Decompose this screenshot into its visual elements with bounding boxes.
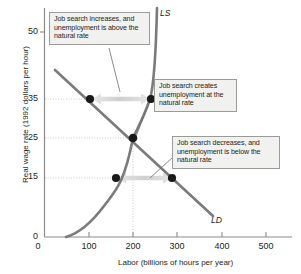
- x-tick-100: 100: [77, 241, 101, 251]
- marker-ld-at-15: [168, 174, 176, 182]
- x-tick-0: 0: [26, 241, 50, 251]
- x-tick-200: 200: [121, 241, 145, 251]
- annotation-below-natural-rate: Job search decreases, and unemployment i…: [172, 136, 280, 169]
- x-tick-300: 300: [165, 241, 189, 251]
- y-tick-0: 0: [18, 231, 38, 241]
- labor-market-chart: LS LD 50 35 25 15 0 0 100 200 300 400 50…: [0, 0, 301, 274]
- leader-above: [109, 48, 120, 92]
- surplus-arrow: [92, 94, 150, 105]
- marker-ld-at-35: [86, 95, 94, 103]
- x-tick-500: 500: [254, 241, 278, 251]
- x-axis-title: Labor (billions of hours per year): [118, 258, 233, 267]
- shortage-arrow: [117, 173, 172, 184]
- marker-ls-at-15: [112, 174, 120, 182]
- annotation-at-natural-rate: Job search creates unemployment at the n…: [154, 79, 237, 112]
- curve-label-ls: LS: [160, 8, 171, 18]
- callout-leaders: [109, 48, 172, 178]
- curve-label-ld: LD: [211, 215, 222, 225]
- y-axis-title: Real wage rate (1992 dollars per hour): [21, 25, 30, 205]
- axis-ticks: [40, 32, 266, 237]
- x-tick-400: 400: [210, 241, 234, 251]
- annotation-above-natural-rate: Job search increases, and unemployment i…: [49, 12, 150, 45]
- marker-equilibrium: [129, 134, 138, 143]
